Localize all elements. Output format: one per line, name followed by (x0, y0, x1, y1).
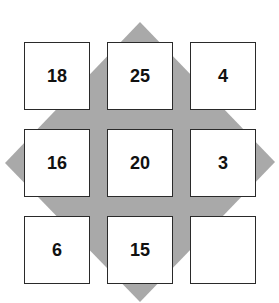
grid-cell-r2-c2: 20 (107, 129, 173, 197)
grid-cell-r2-c3: 3 (190, 129, 256, 197)
grid-cell-r3-c2: 15 (107, 216, 173, 284)
grid-cell-r2-c1: 16 (24, 129, 90, 197)
grid-cell-r3-c1: 6 (24, 216, 90, 284)
grid-cell-r1-c1: 18 (24, 42, 90, 110)
grid-cell-r1-c3: 4 (190, 42, 256, 110)
grid-cell-r1-c2: 25 (107, 42, 173, 110)
grid-cell-r3-c3-empty (190, 216, 256, 284)
